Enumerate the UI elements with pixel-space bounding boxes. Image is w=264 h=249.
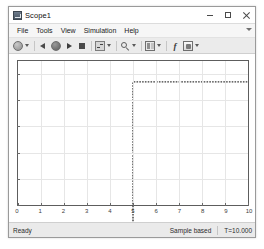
x-axis-tick [87,203,88,206]
stop-icon [77,41,87,51]
measurements-icon: f [170,41,180,51]
window-controls [201,7,255,23]
grid-line-horizontal [18,179,248,180]
status-time: T=10.000 [224,227,252,234]
zoom-icon [120,41,130,51]
close-icon [243,12,250,19]
print-button[interactable] [12,39,31,52]
y-axis-tick [17,74,20,75]
chevron-down-icon[interactable] [195,44,199,47]
x-axis-tick [179,203,180,206]
grid-line-vertical [87,61,88,205]
step-back-icon [38,41,48,51]
x-axis-labels: 012345678910 [17,208,249,217]
run-button[interactable] [63,39,75,52]
y-axis-tick [17,126,20,127]
menu-caret-icon[interactable] [246,28,252,31]
toolbar-separator [91,41,92,51]
rewind-icon [51,41,61,51]
step-back-button[interactable] [37,39,49,52]
config-properties-icon [183,41,193,51]
status-text: Ready [13,227,32,234]
scope-window: Scope1 File Tools View Simulation Help [8,6,256,238]
x-axis-tick-label: 6 [155,208,158,214]
y-axis-tick [17,205,20,206]
grid-line-horizontal [18,153,248,154]
title-bar[interactable]: Scope1 [9,7,255,24]
zoom-button[interactable] [119,39,138,52]
grid-line-vertical [133,61,134,205]
x-axis-tick [110,203,111,206]
grid-line-vertical [156,61,157,205]
minimize-icon [207,15,213,16]
grid-line-horizontal [18,126,248,127]
chevron-down-icon[interactable] [157,44,161,47]
x-axis-tick-label: 10 [246,208,253,214]
chevron-down-icon[interactable] [25,44,29,47]
menu-item-view[interactable]: View [57,27,80,34]
x-axis-tick-label: 5 [131,208,134,214]
maximize-icon [225,12,231,18]
scope-axes[interactable] [17,60,249,206]
window-title: Scope1 [25,11,51,20]
x-axis-tick [133,203,134,206]
x-axis-tick-label: 0 [15,208,18,214]
step-forward-button[interactable] [94,39,113,52]
menu-item-simulation[interactable]: Simulation [80,27,121,34]
status-bar: Ready Sample based T=10.000 [9,222,255,237]
maximize-button[interactable] [219,7,237,23]
plot-area[interactable]: 012345678910 [9,54,255,222]
y-axis-tick [17,153,20,154]
toolbar-separator [116,41,117,51]
toolbar-separator [34,41,35,51]
status-divider [217,226,218,235]
toolbar-separator [166,41,167,51]
print-icon [13,41,23,51]
grid-line-horizontal [18,100,248,101]
x-axis-tick [202,203,203,206]
config-properties-button[interactable] [182,39,201,52]
status-right-group: Sample based T=10.000 [170,226,252,235]
scope-icon [13,11,22,20]
layout-icon [145,41,155,51]
close-button[interactable] [237,7,255,23]
x-axis-tick-label: 9 [224,208,227,214]
x-axis-tick-label: 3 [85,208,88,214]
x-axis-tick [156,203,157,206]
x-axis-tick [64,203,65,206]
layout-button[interactable] [144,39,163,52]
menu-item-help[interactable]: Help [120,27,142,34]
y-axis-tick [17,179,20,180]
x-axis-tick [41,203,42,206]
stop-button[interactable] [76,39,88,52]
rewind-button[interactable] [50,39,62,52]
minimize-button[interactable] [201,7,219,23]
grid-line-vertical [64,61,65,205]
run-icon [64,41,74,51]
chevron-down-icon[interactable] [107,44,111,47]
chevron-down-icon[interactable] [132,44,136,47]
menu-item-file[interactable]: File [13,27,32,34]
y-axis-tick [17,100,20,101]
grid-line-horizontal [18,74,248,75]
toolbar: f [9,38,255,54]
grid-line-vertical [41,61,42,205]
toolbar-separator [141,41,142,51]
x-axis-tick-label: 1 [39,208,42,214]
measurements-button[interactable]: f [169,39,181,52]
x-axis-tick-label: 7 [178,208,181,214]
x-axis-tick-label: 4 [108,208,111,214]
status-mode: Sample based [170,227,212,234]
x-axis-tick [248,203,249,206]
grid-line-vertical [225,61,226,205]
x-axis-tick [225,203,226,206]
menu-bar: File Tools View Simulation Help [9,24,255,38]
grid-line-vertical [110,61,111,205]
x-axis-tick-label: 8 [201,208,204,214]
x-axis-tick-label: 2 [62,208,65,214]
menu-item-tools[interactable]: Tools [32,27,56,34]
step-forward-icon [95,41,105,51]
grid-line-vertical [179,61,180,205]
grid-line-vertical [202,61,203,205]
